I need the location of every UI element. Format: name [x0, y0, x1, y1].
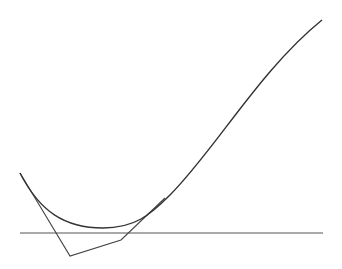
control-polygon — [20, 173, 165, 256]
spline-diagram — [0, 0, 342, 269]
smooth-curve — [20, 20, 322, 228]
